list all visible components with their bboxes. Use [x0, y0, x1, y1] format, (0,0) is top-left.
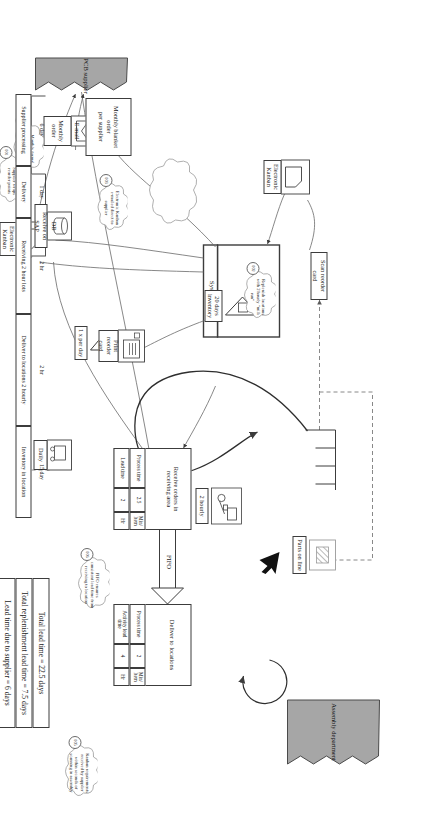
- daily-shipment-icon: [47, 440, 71, 470]
- box-one-per-day[interactable]: 1 x per day: [74, 326, 87, 360]
- summary-total-replenishment-lead-time-text: Total replenishment lead time = 7.5 days: [19, 591, 28, 715]
- box-print-reorder-card[interactable]: Print reorder card: [98, 330, 118, 362]
- annotation-cloud-002: Replenish locations with 2 hourly “milk …: [233, 266, 275, 328]
- vsm-canvas: PCB supplier Assembly department SAP Sys…: [0, 0, 427, 838]
- box-inventory-20-days-label: 20 days inventory: [206, 294, 220, 318]
- box-two-hourly-label: 2 hourly: [198, 495, 205, 516]
- operator-icon: [211, 488, 241, 524]
- annotation-006-text: FIFO ensures consistent lead time from r…: [84, 552, 100, 618]
- deliver-row0-label: Process time: [129, 604, 145, 644]
- timeline-time-4: 15 day: [38, 426, 44, 518]
- printer-icon: [118, 330, 144, 362]
- supermarket-symbol: [305, 430, 335, 490]
- annotation-005-text: Kanban requirements received by supplier…: [68, 740, 89, 806]
- timeline-label-3: Deliver to locations 2 hourly: [20, 336, 27, 405]
- timeline-segment-receiving: Receiving 2 hour lots: [15, 218, 31, 314]
- label-db: DB: [50, 212, 57, 240]
- box-print-reorder-card-label: Print reorder card: [97, 332, 118, 360]
- label-email: E-mail: [73, 116, 80, 146]
- box-monthly-order[interactable]: Monthly order: [43, 116, 71, 146]
- summary-lead-time-due-to-supplier: Lead time due to supplier = 6 days: [0, 578, 15, 728]
- withdrawal-kanban-loop: [242, 660, 286, 703]
- timeline-time-1: 1 day: [38, 166, 44, 218]
- summary-total-lead-time-text: Total lead time = 22.5 days: [36, 612, 45, 695]
- box-electronic-kanban-supplier-label: Electronic Kanban: [1, 226, 15, 252]
- box-scan-reorder-card[interactable]: Scan reorder card: [310, 252, 327, 300]
- timeline-time-3: 2 hr: [38, 314, 44, 426]
- timeline-segment-supplier-processing: Supplier processing: [15, 94, 31, 166]
- customer-label: Assembly department: [330, 692, 337, 772]
- receive-orders-row1-label: Lead time: [113, 448, 129, 488]
- box-electronic-kanban-top-label: Electronic Kanban: [265, 164, 279, 190]
- box-parts-on-line[interactable]: Parts on line: [292, 536, 306, 574]
- box-one-per-day-label: 1 x per day: [77, 329, 84, 357]
- timeline-segment-deliver-locations: Deliver to locations 2 hourly: [15, 314, 31, 426]
- receive-orders-row0-value: 2.5: [129, 488, 145, 512]
- deliver-row1-unit: Hr: [113, 668, 129, 686]
- box-inventory-20-days[interactable]: 20 days inventory: [204, 290, 222, 322]
- process-deliver-to-locations-title: Deliver to locations: [168, 606, 175, 684]
- electronic-kanban-icon-top: [281, 160, 309, 194]
- annotation-003-text: Electronic Kanban e-mailed direct to sup…: [104, 178, 120, 238]
- receive-orders-row1-unit: Hr: [113, 512, 129, 530]
- cloud-shapes: [149, 159, 196, 223]
- process-receive-orders-title: Receive orders in receiving area: [165, 450, 179, 528]
- box-monthly-blanket-order[interactable]: Monthly blanket order per supplier: [85, 98, 131, 156]
- fifo-label: FIFO: [165, 540, 172, 584]
- deliver-row0-unit: Min/ Item: [129, 668, 145, 686]
- summary-total-replenishment-lead-time: Total replenishment lead time = 7.5 days: [15, 578, 32, 728]
- annotation-002-text: Replenish locations with 2 hourly “milk …: [250, 266, 266, 328]
- annotation-006-number: 006: [80, 548, 93, 561]
- timeline-time-2: 2 hr: [38, 218, 44, 314]
- box-parts-on-line-label: Parts on line: [295, 539, 302, 570]
- timeline-label-2: Receiving 2 hour lots: [20, 240, 27, 292]
- timeline-label-4: Inventory in location: [20, 447, 27, 497]
- parts-on-line-icon: [309, 540, 335, 570]
- box-electronic-kanban-supplier[interactable]: Electronic Kanban: [0, 222, 17, 256]
- box-scan-reorder-card-label: Scan reorder card: [311, 254, 325, 298]
- annotation-cloud-006: FIFO ensures consistent lead time from r…: [67, 552, 109, 618]
- annotation-003-number: 003: [99, 174, 112, 187]
- receive-orders-row0-unit: Min/ Item: [129, 512, 145, 530]
- receive-orders-row1-value: 2: [113, 488, 129, 512]
- box-monthly-order-label: Monthly order: [50, 118, 64, 144]
- supplier-label: PCB supplier: [82, 46, 89, 106]
- box-electronic-kanban-top[interactable]: Electronic Kanban: [263, 160, 281, 194]
- timeline-time-0: 6 day: [38, 94, 44, 166]
- timeline-segment-delivery: Delivery: [15, 166, 31, 218]
- supplier-chevron-shape: [35, 58, 127, 90]
- annotation-cloud-003: Electronic Kanban e-mailed direct to sup…: [87, 178, 127, 238]
- deliver-row1-value: 4: [113, 644, 129, 668]
- box-monthly-blanket-order-label: Monthly blanket order per supplier: [97, 100, 118, 154]
- receive-orders-row0-label: Process time: [129, 448, 145, 488]
- deliver-row1-label: Activity lead time: [113, 604, 129, 644]
- annotation-002-number: 002: [246, 262, 259, 275]
- timeline-label-1: Delivery: [20, 182, 27, 203]
- annotation-005-number: 005: [68, 736, 81, 749]
- pointer-hand-icon: [259, 552, 279, 574]
- summary-total-lead-time: Total lead time = 22.5 days: [32, 578, 49, 728]
- box-two-hourly[interactable]: 2 hourly: [195, 488, 208, 524]
- timeline-segment-inventory-location: Inventory in location: [15, 426, 31, 518]
- annotation-cloud-005: Kanban requirements received by supplier…: [53, 740, 97, 806]
- deliver-row0-value: 2: [129, 644, 145, 668]
- timeline-label-0: Supplier processing: [20, 106, 27, 154]
- diagram-page: PCB supplier Assembly department SAP Sys…: [0, 0, 427, 838]
- summary-lead-time-due-to-supplier-text: Lead time due to supplier = 6 days: [2, 600, 11, 705]
